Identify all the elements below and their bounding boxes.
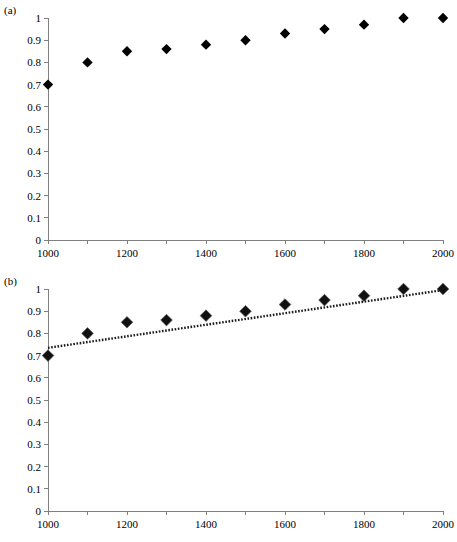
trendline xyxy=(48,290,443,348)
y-tick-label: 0.2 xyxy=(27,461,41,473)
data-point-marker xyxy=(398,13,408,23)
data-point-marker xyxy=(161,314,173,326)
y-tick-label: 0.4 xyxy=(27,145,41,157)
data-point-marker xyxy=(43,79,53,89)
x-tick-label: 1000 xyxy=(37,247,60,259)
panel-a-plot: 00.10.20.30.40.50.60.70.80.9110001200140… xyxy=(0,0,457,271)
y-tick-label: 0 xyxy=(36,234,42,246)
data-point-marker xyxy=(319,24,329,34)
panel-a: (a) 00.10.20.30.40.50.60.70.80.911000120… xyxy=(0,0,457,271)
x-tick-label: 2000 xyxy=(432,518,455,530)
y-tick-label: 0.9 xyxy=(27,34,41,46)
y-tick-label: 0.5 xyxy=(27,394,41,406)
data-point-marker xyxy=(200,310,212,322)
data-point-marker xyxy=(279,299,291,311)
x-tick-label: 2000 xyxy=(432,247,455,259)
y-tick-label: 0 xyxy=(36,505,42,517)
y-tick-label: 0.5 xyxy=(27,123,41,135)
x-tick-label: 1000 xyxy=(37,518,60,530)
y-tick-label: 0.6 xyxy=(27,101,41,113)
data-point-marker xyxy=(42,350,54,362)
y-tick-label: 0.8 xyxy=(27,56,41,68)
y-tick-label: 0.1 xyxy=(27,212,41,224)
y-tick-label: 0.3 xyxy=(27,438,41,450)
panel-b-plot: 00.10.20.30.40.50.60.70.80.9110001200140… xyxy=(0,271,457,542)
data-point-marker xyxy=(240,305,252,317)
y-tick-label: 0.7 xyxy=(27,79,41,91)
x-tick-label: 1200 xyxy=(116,247,139,259)
y-tick-label: 1 xyxy=(36,12,42,24)
data-point-marker xyxy=(161,44,171,54)
y-tick-label: 0.8 xyxy=(27,327,41,339)
data-point-marker xyxy=(358,290,370,302)
data-point-marker xyxy=(437,283,449,295)
y-tick-label: 1 xyxy=(36,283,42,295)
x-tick-label: 1800 xyxy=(353,518,376,530)
data-point-marker xyxy=(319,294,331,306)
panel-b: (b) 00.10.20.30.40.50.60.70.80.911000120… xyxy=(0,271,457,542)
data-point-marker xyxy=(201,39,211,49)
data-point-marker xyxy=(398,283,410,295)
data-point-marker xyxy=(240,35,250,45)
y-tick-label: 0.1 xyxy=(27,483,41,495)
data-point-marker xyxy=(438,13,448,23)
data-point-marker xyxy=(82,57,92,67)
x-tick-label: 1600 xyxy=(274,518,297,530)
y-tick-label: 0.3 xyxy=(27,167,41,179)
y-tick-label: 0.7 xyxy=(27,350,41,362)
data-point-marker xyxy=(280,28,290,38)
y-tick-label: 0.2 xyxy=(27,190,41,202)
x-tick-label: 1400 xyxy=(195,518,218,530)
x-tick-label: 1200 xyxy=(116,518,139,530)
x-tick-label: 1800 xyxy=(353,247,376,259)
data-point-marker xyxy=(82,328,94,340)
x-tick-label: 1400 xyxy=(195,247,218,259)
data-point-marker xyxy=(359,19,369,29)
data-point-marker xyxy=(121,317,133,329)
x-tick-label: 1600 xyxy=(274,247,297,259)
y-tick-label: 0.6 xyxy=(27,372,41,384)
figure-two-panel-scatter: (a) 00.10.20.30.40.50.60.70.80.911000120… xyxy=(0,0,457,542)
data-point-marker xyxy=(122,46,132,56)
y-tick-label: 0.9 xyxy=(27,305,41,317)
y-tick-label: 0.4 xyxy=(27,416,41,428)
